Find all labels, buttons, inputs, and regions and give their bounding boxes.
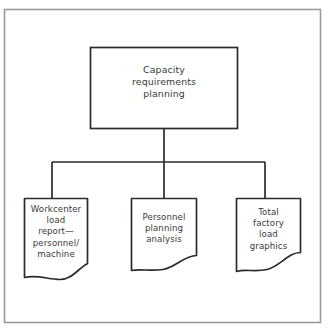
root-node-box bbox=[91, 48, 238, 129]
doc-2-shape bbox=[132, 199, 197, 271]
diagram-canvas: Capacity requirements planning Workcente… bbox=[0, 0, 329, 332]
doc-1-shape bbox=[25, 199, 88, 280]
diagram-svg bbox=[0, 0, 329, 332]
doc-3-shape bbox=[237, 199, 301, 272]
